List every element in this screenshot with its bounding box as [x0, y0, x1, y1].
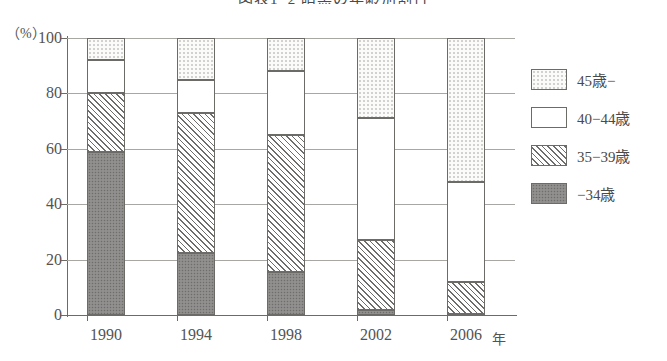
- y-tick-20: [61, 260, 67, 261]
- bar-1998-seg-45plus[interactable]: [267, 38, 305, 71]
- bar-1994-seg-40-44[interactable]: [177, 80, 215, 113]
- bar-1994-seg-35-39[interactable]: [177, 113, 215, 253]
- legend-item-35-39[interactable]: 35−39歳: [531, 136, 667, 174]
- x-tick-label-1998: 1998: [270, 326, 302, 344]
- x-axis-unit-label: 年: [492, 328, 506, 348]
- bar-1998-seg-40-44[interactable]: [267, 71, 305, 135]
- legend-item-under34[interactable]: −34歳: [531, 174, 667, 212]
- legend-label-45plus: 45歳−: [577, 69, 615, 90]
- legend-swatch-35-39-icon: [531, 145, 567, 166]
- bar-1994-seg-under34[interactable]: [177, 253, 215, 315]
- y-tick-40: [61, 204, 67, 205]
- bar-1990-seg-45plus[interactable]: [87, 38, 125, 60]
- y-tick-label-40: 40: [46, 196, 62, 212]
- y-axis-tick-labels: 100 80 60 40 20 0: [0, 38, 62, 315]
- legend-swatch-40-44-icon: [531, 107, 567, 128]
- chart-legend: 45歳− 40−44歳 35−39歳 −34歳: [531, 60, 667, 212]
- x-tick-label-1990: 1990: [90, 326, 122, 344]
- bar-2002-seg-35-39[interactable]: [357, 240, 395, 309]
- legend-label-under34: −34歳: [577, 183, 615, 204]
- bar-1990-seg-40-44[interactable]: [87, 60, 125, 93]
- x-tick-label-1994: 1994: [180, 326, 212, 344]
- y-tick-100: [61, 38, 67, 39]
- y-tick-label-20: 20: [46, 252, 62, 268]
- y-tick-0: [61, 315, 67, 316]
- chart-title: 図表1−2 暗黒の年齢別割合: [0, 0, 667, 4]
- bar-2006-seg-45plus[interactable]: [447, 38, 485, 182]
- x-tick-1998: [267, 315, 268, 321]
- y-tick-label-60: 60: [46, 141, 62, 157]
- y-tick-label-100: 100: [38, 30, 62, 46]
- legend-label-40-44: 40−44歳: [577, 107, 630, 128]
- bar-2002-seg-under34[interactable]: [357, 310, 395, 316]
- bar-2002-seg-45plus[interactable]: [357, 38, 395, 118]
- legend-item-40-44[interactable]: 40−44歳: [531, 98, 667, 136]
- x-tick-label-2002: 2002: [360, 326, 392, 344]
- legend-label-35-39: 35−39歳: [577, 145, 630, 166]
- bar-1990-seg-35-39[interactable]: [87, 93, 125, 151]
- y-tick-60: [61, 149, 67, 150]
- bar-1998-seg-under34[interactable]: [267, 272, 305, 315]
- bar-1994-seg-45plus[interactable]: [177, 38, 215, 80]
- x-tick-label-2006: 2006: [450, 326, 482, 344]
- legend-swatch-45plus-icon: [531, 69, 567, 90]
- x-tick-1990: [87, 315, 88, 321]
- bar-1990-seg-under34[interactable]: [87, 152, 125, 315]
- x-tick-1994: [177, 315, 178, 321]
- y-tick-label-80: 80: [46, 85, 62, 101]
- bar-2006-seg-40-44[interactable]: [447, 182, 485, 282]
- y-tick-80: [61, 93, 67, 94]
- bar-2006-seg-35-39[interactable]: [447, 282, 485, 314]
- x-axis-line: [65, 315, 517, 316]
- bar-2002-seg-40-44[interactable]: [357, 118, 395, 240]
- bar-1998-seg-35-39[interactable]: [267, 135, 305, 272]
- legend-item-45plus[interactable]: 45歳−: [531, 60, 667, 98]
- plot-area: [67, 38, 515, 315]
- legend-swatch-under34-icon: [531, 183, 567, 204]
- x-tick-2002: [357, 315, 358, 321]
- chart-root: 図表1−2 暗黒の年齢別割合 （%） 年 100 80 60 40 20 0: [0, 0, 667, 361]
- x-tick-2006: [447, 315, 448, 321]
